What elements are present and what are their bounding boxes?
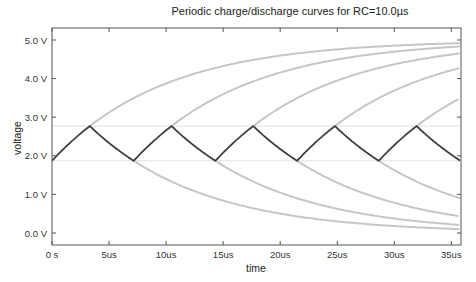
- charge-curve: [215, 54, 459, 161]
- charge-curve: [297, 68, 459, 161]
- curves: [52, 43, 461, 229]
- y-tick-label: 4.0 V: [25, 73, 48, 84]
- y-axis-label: voltage: [11, 121, 23, 155]
- charge-curve: [134, 47, 460, 161]
- discharge-curve: [90, 126, 460, 229]
- x-tick-label: 20us: [270, 249, 291, 260]
- y-tick-label: 0.0 V: [25, 228, 48, 239]
- plot-area: [52, 43, 461, 229]
- x-axis-label: time: [246, 262, 266, 274]
- chart: Periodic charge/discharge curves for RC=…: [0, 0, 476, 282]
- discharge-curve: [335, 126, 461, 198]
- discharge-curve: [253, 126, 458, 216]
- discharge-curve: [172, 126, 460, 225]
- chart-title: Periodic charge/discharge curves for RC=…: [171, 5, 409, 17]
- y-tick-label: 1.0 V: [25, 189, 48, 200]
- y-tick-label: 3.0 V: [25, 112, 48, 123]
- voltage-curve: [52, 126, 460, 161]
- plot-frame: [52, 28, 461, 245]
- x-tick-label: 0 s: [46, 249, 59, 260]
- y-tick-label: 2.0 V: [25, 150, 48, 161]
- x-tick-label: 5us: [101, 249, 117, 260]
- x-tick-label: 35us: [441, 249, 462, 260]
- x-tick-label: 30us: [384, 249, 405, 260]
- x-tick-label: 10us: [156, 249, 177, 260]
- y-tick-label: 5.0 V: [25, 35, 48, 46]
- x-tick-label: 15us: [213, 249, 234, 260]
- charge-curve: [52, 43, 461, 161]
- x-tick-label: 25us: [327, 249, 348, 260]
